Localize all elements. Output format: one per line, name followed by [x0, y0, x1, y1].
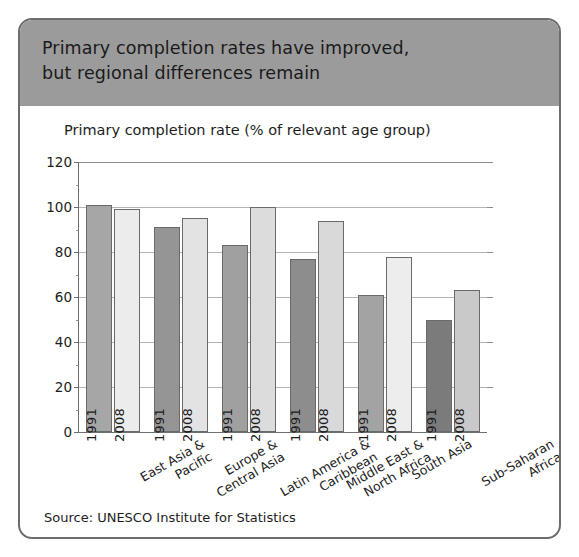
- y-tick-label-40: 40: [55, 334, 72, 350]
- right-tick-120: [487, 162, 493, 163]
- x-axis-label: Sub-SaharanAfrica: [479, 436, 561, 502]
- bar: 2008: [250, 207, 276, 432]
- bar: 2008: [114, 209, 140, 432]
- bar: 2008: [386, 257, 412, 433]
- x-axis-label: East Asia &Pacific: [138, 436, 215, 498]
- chart-area: Primary completion rate (% of relevant a…: [20, 106, 559, 537]
- bar: 1991: [86, 205, 112, 432]
- y-tick-label-100: 100: [46, 199, 72, 215]
- y-tick-mark-0: [74, 432, 79, 433]
- right-tick-20: [487, 387, 493, 388]
- bar: 1991: [154, 227, 180, 432]
- y-tick-label-120: 120: [46, 154, 72, 170]
- bar: 1991: [290, 259, 316, 432]
- chart-axis-title: Primary completion rate (% of relevant a…: [64, 122, 431, 138]
- figure-card: Primary completion rates have improved, …: [18, 18, 561, 539]
- bar: 1991: [222, 245, 248, 432]
- bar: 2008: [454, 290, 480, 432]
- right-tick-100: [487, 207, 493, 208]
- y-tick-label-60: 60: [55, 289, 72, 305]
- source-note: Source: UNESCO Institute for Statistics: [44, 510, 296, 525]
- title-line-1: Primary completion rates have improved,: [42, 36, 559, 61]
- right-tick-60: [487, 297, 493, 298]
- right-tick-80: [487, 252, 493, 253]
- y-tick-label-20: 20: [55, 379, 72, 395]
- bar: 2008: [182, 218, 208, 432]
- title-banner: Primary completion rates have improved, …: [20, 20, 559, 106]
- y-tick-label-0: 0: [63, 424, 72, 440]
- bar: 2008: [318, 221, 344, 433]
- bars-layer: 1991200819912008199120081991200819912008…: [79, 162, 487, 432]
- x-axis-label: Europe &Central Asia: [206, 436, 287, 500]
- bar: 1991: [358, 295, 384, 432]
- right-tick-40: [487, 342, 493, 343]
- plot-frame: 020406080100120 199120081991200819912008…: [78, 162, 487, 433]
- title-line-2: but regional differences remain: [42, 61, 559, 86]
- y-tick-label-80: 80: [55, 244, 72, 260]
- bar: 1991: [426, 320, 452, 433]
